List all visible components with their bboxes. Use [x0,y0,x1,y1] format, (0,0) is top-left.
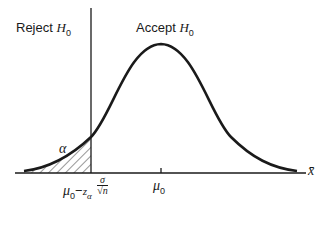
hypothesis-symbol: H [179,20,188,35]
rejection-region [24,137,91,173]
sqrt-n-symbol: √n [97,186,108,196]
mu0-label: μ0 [153,178,165,194]
z-subscript: α [87,191,92,201]
accept-text: Accept [136,20,176,35]
reject-text: Reject [16,20,53,35]
hypothesis-subscript: 0 [189,28,194,38]
hypothesis-subscript: 0 [66,28,71,38]
accept-h0-label: Accept H0 [136,20,194,36]
mu-symbol: μ [153,178,160,193]
alpha-label: α [59,141,66,157]
x-bar-axis-label: x̄ [308,163,314,179]
critical-value-label: μ0−zα σ √n [63,181,108,202]
mu-subscript: 0 [70,191,75,201]
minus-sign: − [75,183,83,198]
hypothesis-symbol: H [56,20,65,35]
reject-h0-label: Reject H0 [16,20,71,36]
sigma-over-sqrt-n: σ √n [97,175,108,196]
mu-symbol: μ [63,183,70,198]
mu-subscript: 0 [160,186,165,196]
